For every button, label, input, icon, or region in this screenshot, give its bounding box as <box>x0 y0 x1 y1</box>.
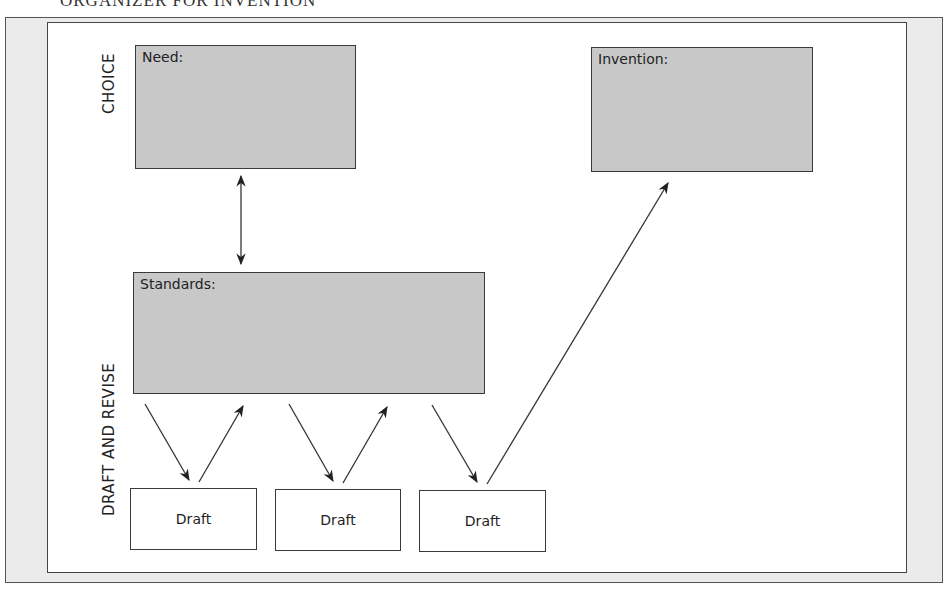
draft3-to-invention-arrow <box>487 183 668 484</box>
standards-to-draft1-arrow <box>145 404 189 480</box>
draft1-to-standards-arrow <box>199 406 243 482</box>
standards-to-draft3-arrow <box>432 405 477 482</box>
standards-to-draft2-arrow <box>289 404 333 481</box>
draft2-to-standards-arrow <box>343 407 387 483</box>
arrows-layer <box>0 0 951 594</box>
